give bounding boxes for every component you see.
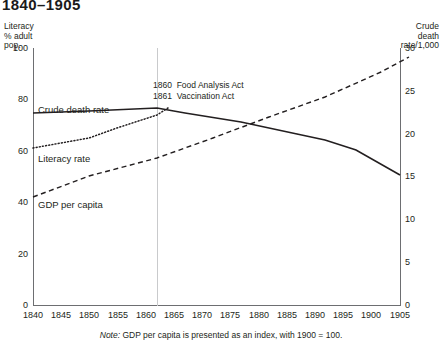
series-line-gdp-per-capita	[33, 57, 409, 197]
plot-area	[0, 0, 442, 349]
series-line-crude-death-rate	[33, 108, 400, 175]
annotation-food-analysis-act: 1860 Food Analysis Act	[153, 80, 244, 91]
note-prefix: Note:	[100, 330, 120, 340]
series-label-gdp-per-capita: GDP per capita	[38, 199, 103, 210]
note-text: GDP per capita is presented as an index,…	[120, 330, 342, 340]
series-label-literacy-rate: Literacy rate	[38, 153, 90, 164]
chart-note: Note: GDP per capita is presented as an …	[0, 330, 442, 340]
annotation-vaccination-act: 1861 Vaccination Act	[153, 91, 234, 102]
chart-figure: 1840–1905 Literacy % adult pop. Crude de…	[0, 0, 442, 349]
series-label-crude-death-rate: Crude death rate	[38, 104, 109, 115]
